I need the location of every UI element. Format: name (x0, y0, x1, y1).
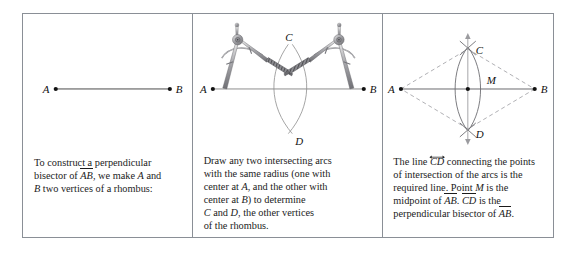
c-label: C (204, 207, 211, 218)
caption-line: perpendicular bisector of AB. (393, 207, 549, 220)
caption-line: C and D, the other vertices (204, 206, 377, 219)
line-cd-arrowhead-top (465, 33, 471, 39)
point-c-label: C (476, 44, 484, 56)
caption-text: perpendicular bisector of (393, 208, 499, 219)
caption-text: of the rhombus. (204, 220, 269, 231)
caption-text: with the same radius (one with (204, 168, 331, 179)
caption-line: of the rhombus. (204, 219, 377, 232)
caption-text: , and the other with (248, 181, 328, 192)
point-a-dot (399, 87, 403, 91)
overbar (444, 193, 457, 194)
compass-left-pivot-center (237, 39, 239, 41)
d-label: D (231, 207, 238, 218)
panel-2-diagram: A B C D (193, 14, 383, 154)
compass-left (221, 23, 292, 89)
point-b-label: B (369, 83, 376, 95)
point-a-label: A (199, 83, 207, 95)
caption-line: B two vertices of a rhombus: (34, 182, 186, 195)
compass-left-needle-leg (222, 40, 238, 89)
caption-text: The line (393, 156, 430, 167)
line-cd-arrowhead-bottom (465, 139, 471, 145)
panel-3: A B C D M The line CD connecting the poi… (383, 14, 553, 237)
m-label: M (475, 182, 484, 193)
compass-right-pencil-leg (307, 40, 337, 63)
point-b-dot (168, 87, 172, 91)
point-b-dot (361, 87, 365, 91)
rhombus-bisector-svg: A B C D M (383, 14, 553, 154)
caption-text: and (144, 170, 161, 181)
caption-text: center at (204, 181, 242, 192)
ab-label: AB (444, 195, 457, 206)
caption-line: center at A, and the other with (204, 180, 377, 193)
panel-3-diagram: A B C D M (383, 14, 553, 154)
caption-line: The line CD connecting the points (393, 154, 549, 168)
segment-ab-notation: AB (499, 207, 512, 220)
point-a-label: A (387, 83, 395, 95)
segment-ab-svg: A B (23, 14, 192, 154)
double-arrow-icon (429, 154, 445, 159)
caption-text: bisector of (34, 170, 80, 181)
point-d-label: D (294, 135, 303, 147)
panel-2-caption: Draw any two intersecting arcs with the … (204, 154, 377, 233)
point-a-label: A (42, 83, 50, 95)
caption-text: . (511, 208, 514, 219)
caption-text: Draw any two intersecting arcs (204, 155, 332, 166)
caption-text: is the (484, 182, 509, 193)
caption-line: midpoint of AB. CD is the (393, 194, 549, 207)
caption-text: , we make (93, 170, 138, 181)
panel-1-diagram: A B (23, 14, 192, 154)
segment-ab-notation: AB (80, 169, 93, 182)
caption-text: center at (204, 194, 242, 205)
panel-2: A B C D Draw any two intersecting arcs w… (193, 14, 384, 237)
point-d-label: D (475, 128, 484, 140)
overbar (80, 168, 93, 169)
construction-figure: A B To construct a perpendicular bisecto… (22, 13, 554, 238)
caption-line: Draw any two intersecting arcs (204, 154, 377, 167)
caption-line: bisector of AB, we make A and (34, 169, 186, 182)
cd-label: CD (462, 195, 476, 206)
line-cd-notation: CD (430, 154, 444, 168)
compass-right (284, 23, 355, 89)
compass-right-needle-leg (337, 40, 353, 89)
panel-1-caption: To construct a perpendicular bisector of… (34, 156, 186, 195)
compass-right-pencil-grip (287, 58, 311, 75)
compass-right-pivot-center (338, 39, 340, 41)
compass-left-handle-knob (235, 23, 239, 27)
panel-3-caption: The line CD connecting the points of int… (393, 154, 549, 220)
segment-cd-notation: CD (462, 194, 476, 207)
point-a-dot (54, 87, 58, 91)
caption-line: To construct a perpendicular (34, 156, 186, 169)
overbar (499, 206, 512, 207)
point-b-label: B (541, 83, 548, 95)
ab-label: AB (80, 170, 93, 181)
segment-ab-notation: AB (444, 194, 457, 207)
caption-line: of intersection of the arcs is the (393, 168, 549, 181)
caption-text: is the (476, 195, 501, 206)
caption-text: and (211, 207, 231, 218)
caption-text: required line. Point (393, 182, 475, 193)
caption-text: connecting the points (444, 156, 535, 167)
compass-left-pencil-leg (239, 40, 269, 63)
point-c-label: C (285, 31, 293, 43)
caption-text: midpoint of (393, 195, 444, 206)
compass-right-handle-knob (337, 23, 341, 27)
caption-text: , the other vertices (238, 207, 314, 218)
caption-text: To construct a perpendicular (34, 157, 151, 168)
caption-text: of intersection of the arcs is the (393, 169, 522, 180)
point-a-dot (210, 87, 214, 91)
caption-line: center at B) to determine (204, 193, 377, 206)
point-b-dot (533, 87, 537, 91)
caption-text: two vertices of a rhombus: (40, 183, 152, 194)
panel-1: A B To construct a perpendicular bisecto… (23, 14, 193, 237)
caption-line: with the same radius (one with (204, 167, 377, 180)
double-arrow-overbar (429, 154, 445, 159)
overbar (462, 193, 476, 194)
point-m-label: M (486, 74, 497, 86)
caption-text: ) to determine (248, 194, 306, 205)
compass-arcs-svg: A B C D (193, 14, 383, 154)
point-b-label: B (176, 83, 183, 95)
ab-label: AB (499, 208, 512, 219)
point-m-dot (466, 87, 470, 91)
